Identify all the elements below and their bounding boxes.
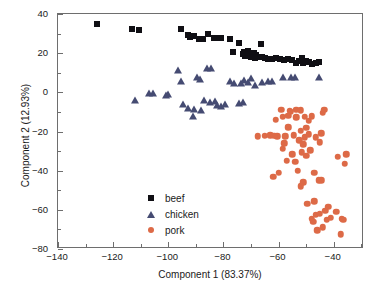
data-point-pork bbox=[281, 140, 288, 147]
data-point-pork bbox=[293, 114, 300, 121]
data-point-chicken bbox=[315, 74, 323, 81]
scatter-plot-figure: Component 2 (12.93%) Component 1 (83.37%… bbox=[0, 0, 378, 297]
data-point-chicken bbox=[149, 90, 157, 97]
x-tick-label: −140 bbox=[46, 251, 67, 262]
data-point-beef bbox=[316, 59, 322, 65]
data-point-pork bbox=[271, 133, 278, 140]
data-point-pork bbox=[343, 151, 350, 158]
y-tick-label: 20 bbox=[0, 47, 48, 58]
data-point-pork bbox=[295, 167, 302, 174]
legend-item-pork[interactable]: pork bbox=[144, 222, 199, 238]
data-point-pork bbox=[279, 114, 286, 121]
data-point-pork bbox=[340, 216, 347, 223]
data-point-pork bbox=[255, 133, 262, 140]
data-point-chicken bbox=[164, 91, 172, 98]
data-point-pork bbox=[285, 124, 292, 131]
data-point-pork bbox=[328, 214, 335, 221]
data-point-pork bbox=[292, 159, 299, 166]
data-point-pork bbox=[307, 147, 314, 154]
data-point-pork bbox=[308, 113, 315, 120]
data-point-chicken bbox=[131, 96, 139, 103]
data-points-layer bbox=[58, 14, 362, 247]
data-point-chicken bbox=[291, 74, 299, 81]
data-point-pork bbox=[297, 107, 304, 114]
legend-item-beef[interactable]: beef bbox=[144, 190, 199, 206]
data-point-pork bbox=[297, 183, 304, 190]
data-point-pork bbox=[278, 106, 285, 113]
data-point-pork bbox=[303, 153, 310, 160]
y-tick-label: 40 bbox=[0, 8, 48, 19]
data-point-chicken bbox=[207, 65, 215, 72]
data-point-chicken bbox=[221, 101, 229, 108]
data-point-pork bbox=[319, 224, 326, 231]
data-point-pork bbox=[289, 151, 296, 158]
data-point-chicken bbox=[279, 74, 287, 81]
data-point-pork bbox=[337, 231, 344, 238]
data-point-beef bbox=[258, 41, 264, 47]
y-tick-label: −40 bbox=[0, 164, 48, 175]
legend-marker-triangle-icon bbox=[144, 211, 158, 218]
data-point-chicken bbox=[196, 75, 204, 82]
data-point-chicken bbox=[189, 112, 197, 119]
data-point-pork bbox=[284, 158, 291, 165]
data-point-pork bbox=[333, 209, 340, 216]
data-point-pork bbox=[300, 141, 307, 148]
legend-label: chicken bbox=[165, 209, 199, 220]
y-tick-label: −80 bbox=[0, 243, 48, 254]
data-point-beef bbox=[227, 36, 233, 42]
data-point-pork bbox=[270, 173, 277, 180]
plot-area: beefchickenpork bbox=[57, 13, 363, 248]
data-point-chicken bbox=[174, 66, 182, 73]
x-tick-label: −60 bbox=[269, 251, 285, 262]
data-point-pork bbox=[311, 198, 318, 205]
data-point-chicken bbox=[268, 78, 276, 85]
x-axis-title: Component 1 (83.37%) bbox=[57, 269, 363, 280]
data-point-pork bbox=[318, 130, 325, 137]
x-tick-label: −80 bbox=[214, 251, 230, 262]
legend-marker-square-icon bbox=[144, 195, 158, 201]
x-tick-label: −100 bbox=[157, 251, 178, 262]
y-tick-label: 0 bbox=[0, 86, 48, 97]
legend-item-chicken[interactable]: chicken bbox=[144, 206, 199, 222]
y-tick bbox=[58, 249, 63, 250]
legend-marker-circle-icon bbox=[144, 227, 158, 234]
data-point-pork bbox=[311, 169, 318, 176]
data-point-pork bbox=[303, 124, 310, 131]
legend-label: beef bbox=[165, 193, 184, 204]
data-point-pork bbox=[321, 107, 328, 114]
x-tick-label: −120 bbox=[101, 251, 122, 262]
data-point-beef bbox=[236, 40, 242, 46]
data-point-pork bbox=[282, 133, 289, 140]
data-point-pork bbox=[273, 117, 280, 124]
data-point-pork bbox=[306, 131, 313, 138]
data-point-pork bbox=[310, 218, 317, 225]
data-point-pork bbox=[304, 201, 311, 208]
data-point-chicken bbox=[177, 77, 185, 84]
y-tick-label: −20 bbox=[0, 125, 48, 136]
data-point-beef bbox=[178, 26, 184, 32]
data-point-beef bbox=[200, 36, 206, 42]
data-point-pork bbox=[325, 204, 332, 211]
data-point-beef bbox=[129, 26, 135, 32]
data-point-pork bbox=[318, 177, 325, 184]
data-point-pork bbox=[341, 161, 348, 168]
legend: beefchickenpork bbox=[144, 190, 199, 238]
data-point-chicken bbox=[197, 106, 205, 113]
data-point-beef bbox=[230, 49, 236, 55]
data-point-pork bbox=[335, 154, 342, 161]
data-point-beef bbox=[136, 27, 142, 33]
data-point-beef bbox=[218, 35, 224, 41]
data-point-pork bbox=[317, 139, 324, 146]
y-tick-label: −60 bbox=[0, 203, 48, 214]
data-point-beef bbox=[94, 21, 100, 27]
x-tick-label: −40 bbox=[325, 251, 341, 262]
data-point-chicken bbox=[239, 98, 247, 105]
legend-label: pork bbox=[165, 225, 184, 236]
